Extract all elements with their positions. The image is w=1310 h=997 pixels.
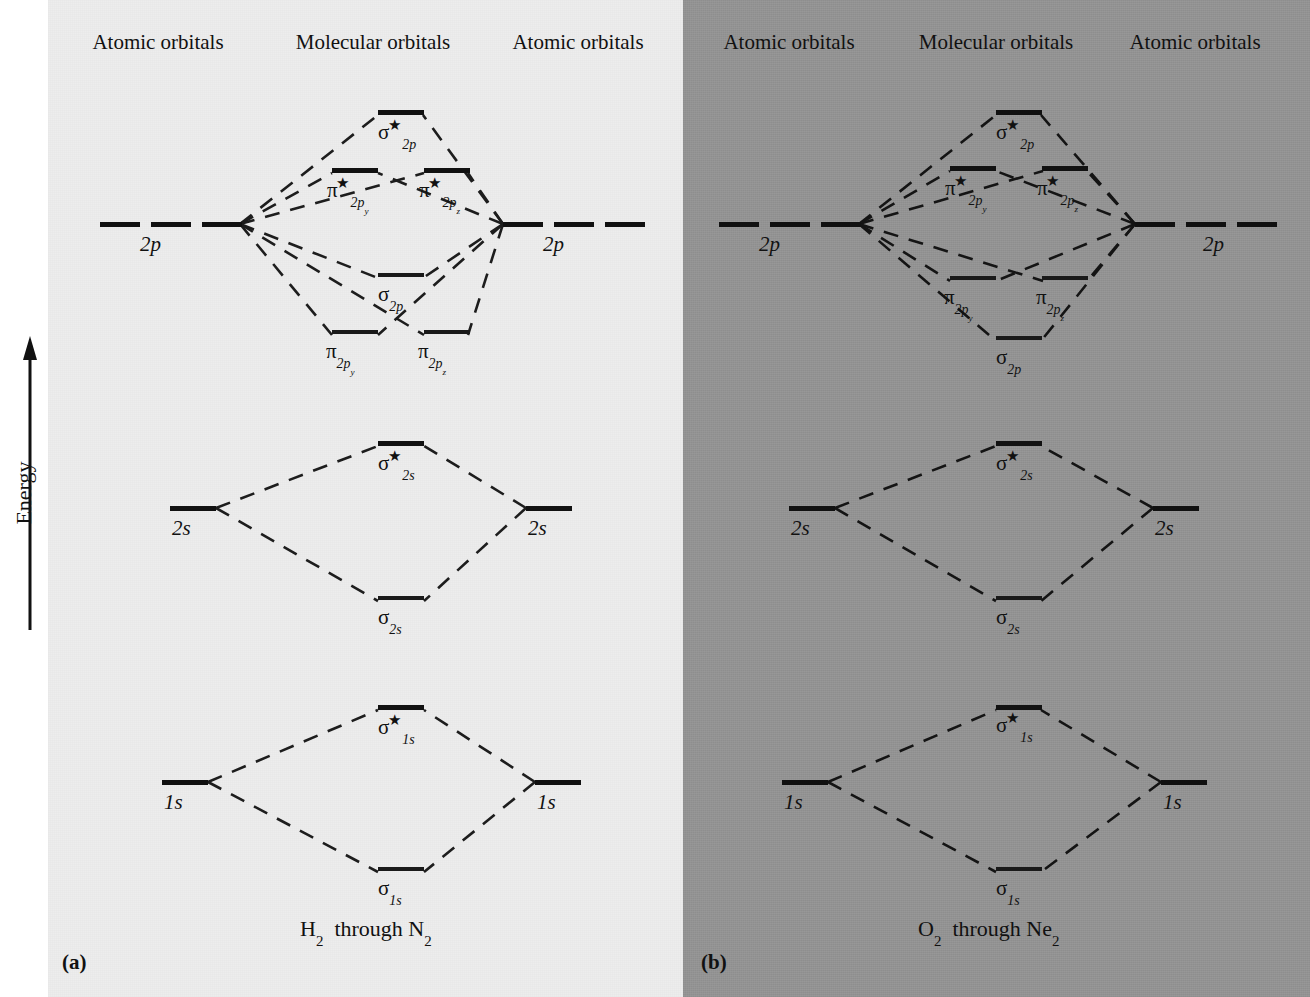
panel-a-right-1s-label: 1s — [537, 790, 556, 815]
panel-a-pi-2pz-antibonding-label: π★2pz — [419, 178, 460, 203]
panel-b-pi-2py-bonding-label: π2py — [944, 285, 973, 310]
panel-b-pi-2pz-antibonding-label: π★2pz — [1037, 176, 1078, 201]
panel-a-sigma-2s-antibonding-label: σ★2s — [378, 451, 415, 476]
panel-b-sigma-2p-bonding-label: σ2p — [996, 345, 1021, 370]
panel-a-sigma-1s-antibonding-label: σ★1s — [378, 715, 415, 740]
panel-b-right-1s-label: 1s — [1163, 790, 1182, 815]
panel-a-correlation-lines — [48, 0, 683, 997]
panel-b-sigma-1s-bonding-label: σ1s — [996, 876, 1020, 901]
panel-b-sigma-2s-antibonding-label: σ★2s — [996, 451, 1033, 476]
energy-axis: Energy — [0, 330, 48, 630]
panel-a-sigma-2p-bonding-label: σ2p — [378, 282, 403, 307]
panel-b-left-1s-label: 1s — [784, 790, 803, 815]
panel-a-h2-through-n2: Atomic orbitals Molecular orbitals Atomi… — [48, 0, 683, 997]
panel-a-left-1s-label: 1s — [164, 790, 183, 815]
panel-b-caption: O2 through Ne2 — [918, 916, 1059, 945]
panel-a-caption: H2 through N2 — [300, 916, 432, 945]
panel-b-left-2p-label: 2p — [759, 232, 780, 257]
panel-a-tag: (a) — [62, 950, 87, 975]
energy-axis-label: Energy — [11, 373, 37, 613]
panel-a-sigma-2s-bonding-label: σ2s — [378, 605, 402, 630]
panel-b-sigma-2p-antibonding-label: σ★2p — [996, 120, 1034, 145]
panel-b-pi-2pz-bonding-label: π2pz — [1036, 285, 1064, 310]
panel-b-sigma-2s-bonding-label: σ2s — [996, 605, 1020, 630]
panel-a-left-2p-label: 2p — [140, 232, 161, 257]
panel-b-o2-through-ne2: Atomic orbitals Molecular orbitals Atomi… — [683, 0, 1310, 997]
panel-a-pi-2pz-bonding-label: π2pz — [418, 339, 446, 364]
panel-b-right-2p-label: 2p — [1203, 232, 1224, 257]
panel-b-correlation-lines — [683, 0, 1310, 997]
panel-a-right-2p-label: 2p — [543, 232, 564, 257]
panel-a-sigma-2p-antibonding-label: σ★2p — [378, 120, 416, 145]
mo-diagram-figure: Energy Atomic orbitals Molecular orbital… — [0, 0, 1310, 997]
panel-b-pi-2py-antibonding-label: π★2py — [945, 176, 987, 201]
panel-a-left-2s-label: 2s — [172, 516, 191, 541]
panel-b-right-2s-label: 2s — [1155, 516, 1174, 541]
panel-a-pi-2py-bonding-label: π2py — [326, 339, 355, 364]
panel-a-right-2s-label: 2s — [528, 516, 547, 541]
panel-b-left-2s-label: 2s — [791, 516, 810, 541]
panel-a-sigma-1s-bonding-label: σ1s — [378, 876, 402, 901]
panel-a-pi-2py-antibonding-label: π★2py — [327, 178, 369, 203]
panel-b-sigma-1s-antibonding-label: σ★1s — [996, 713, 1033, 738]
panel-b-tag: (b) — [701, 950, 727, 975]
